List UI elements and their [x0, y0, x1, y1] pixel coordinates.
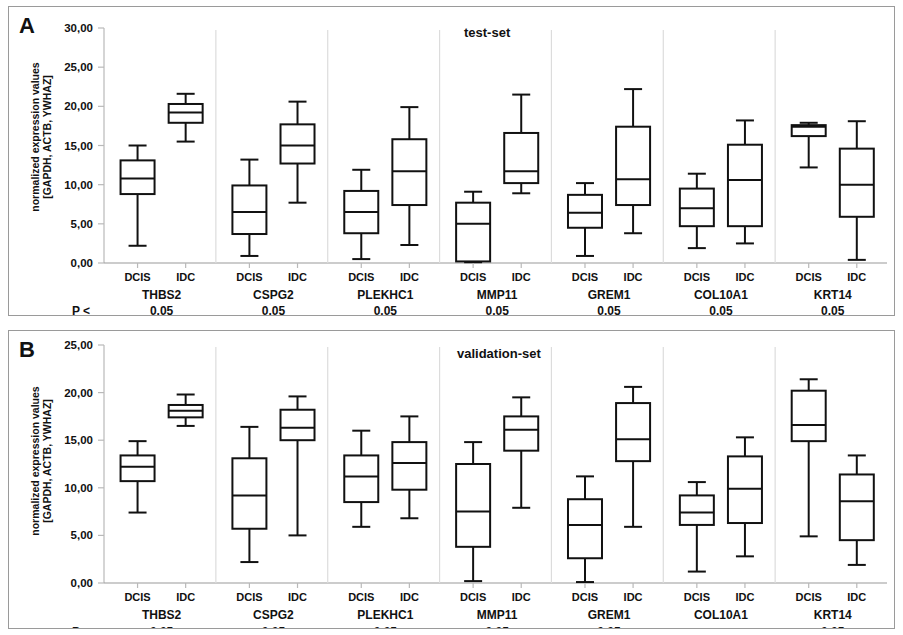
group-label-dcis: DCIS: [572, 591, 598, 603]
box-plot-box: [728, 145, 762, 226]
group-label-dcis: DCIS: [124, 271, 150, 283]
box-plot-box: [616, 403, 650, 461]
y-tick-label: 30,00: [64, 22, 93, 34]
group-label-dcis: DCIS: [684, 591, 710, 603]
group-label-idc: IDC: [176, 591, 195, 603]
y-tick-label: 10,00: [64, 179, 93, 191]
y-tick-label: 15,00: [64, 434, 93, 446]
box-plot-box: [121, 455, 155, 481]
box-plot-box: [504, 133, 538, 183]
group-label-dcis: DCIS: [348, 271, 374, 283]
gene-label: GREM1: [588, 608, 631, 622]
gene-label: GREM1: [588, 288, 631, 302]
group-label-dcis: DCIS: [348, 591, 374, 603]
p-value-label: 0.05: [150, 625, 174, 628]
p-prefix-label: P <: [72, 625, 90, 628]
p-value-label: 0.05: [821, 304, 845, 315]
box-plot-box: [344, 455, 378, 502]
box-plot-box: [232, 185, 266, 234]
y-tick-label: 25,00: [64, 339, 93, 351]
panel-b: B validation-set normalized expression v…: [8, 330, 895, 629]
y-tick-label: 20,00: [64, 387, 93, 399]
p-value-label: 0.05: [374, 304, 398, 315]
box-plot-box: [568, 195, 602, 228]
gene-label: CSPG2: [253, 288, 294, 302]
gene-label: MMP11: [477, 288, 518, 302]
group-label-idc: IDC: [400, 271, 419, 283]
box-plot-box: [840, 474, 874, 540]
gene-label: COL10A1: [694, 288, 748, 302]
p-value-label: 0.05: [150, 304, 174, 315]
box-plot-box: [616, 127, 650, 205]
box-plot-box: [281, 410, 315, 440]
p-prefix-label: P <: [72, 304, 90, 315]
group-label-dcis: DCIS: [236, 591, 262, 603]
gene-label: MMP11: [477, 608, 518, 622]
gene-label: CSPG2: [253, 608, 294, 622]
group-label-dcis: DCIS: [796, 271, 822, 283]
group-label-dcis: DCIS: [684, 271, 710, 283]
box-plot-box: [232, 458, 266, 528]
y-tick-label: 10,00: [64, 482, 93, 494]
p-value-label: 0.05: [485, 625, 509, 628]
group-label-idc: IDC: [624, 271, 643, 283]
y-tick-label: 5,00: [71, 218, 93, 230]
group-label-idc: IDC: [735, 271, 754, 283]
group-label-idc: IDC: [847, 271, 866, 283]
p-value-label: 0.05: [485, 304, 509, 315]
panel-a-plot: 0,005,0010,0015,0020,0025,0030,00DCISIDC…: [9, 7, 896, 315]
group-label-idc: IDC: [400, 591, 419, 603]
group-label-idc: IDC: [512, 271, 531, 283]
box-plot-box: [568, 499, 602, 558]
group-label-idc: IDC: [288, 271, 307, 283]
p-value-label: 0.05: [821, 625, 845, 628]
gene-label: PLEKHC1: [357, 608, 413, 622]
box-plot-box: [504, 416, 538, 450]
box-plot-box: [456, 464, 490, 547]
box-plot-box: [792, 391, 826, 441]
y-tick-label: 25,00: [64, 61, 93, 73]
gene-label: PLEKHC1: [357, 288, 413, 302]
gene-label: THBS2: [142, 288, 182, 302]
y-tick-label: 15,00: [64, 140, 93, 152]
group-label-dcis: DCIS: [572, 271, 598, 283]
gene-label: KRT14: [814, 608, 852, 622]
p-value-label: 0.05: [262, 304, 286, 315]
group-label-idc: IDC: [288, 591, 307, 603]
p-value-label: n.s.: [711, 625, 732, 628]
box-plot-box: [281, 124, 315, 163]
box-plot-box: [121, 160, 155, 194]
group-label-dcis: DCIS: [236, 271, 262, 283]
group-label-dcis: DCIS: [460, 271, 486, 283]
group-label-idc: IDC: [624, 591, 643, 603]
box-plot-box: [456, 203, 490, 262]
group-label-idc: IDC: [176, 271, 195, 283]
panel-b-plot: 0,005,0010,0015,0020,0025,00DCISIDCTHBS2…: [9, 331, 896, 628]
p-value-label: 0.05: [374, 625, 398, 628]
group-label-idc: IDC: [847, 591, 866, 603]
panel-a: A test-set normalized expression values …: [8, 6, 895, 316]
p-value-label: 0.05: [709, 304, 733, 315]
y-tick-label: 0,00: [71, 577, 93, 589]
gene-label: COL10A1: [694, 608, 748, 622]
box-plot-box: [840, 149, 874, 217]
gene-label: THBS2: [142, 608, 182, 622]
y-tick-label: 20,00: [64, 100, 93, 112]
y-tick-label: 0,00: [71, 257, 93, 269]
group-label-dcis: DCIS: [124, 591, 150, 603]
figure-root: A test-set normalized expression values …: [0, 0, 903, 635]
group-label-dcis: DCIS: [796, 591, 822, 603]
p-value-label: 0.05: [597, 625, 621, 628]
gene-label: KRT14: [814, 288, 852, 302]
box-plot-box: [392, 442, 426, 490]
group-label-idc: IDC: [735, 591, 754, 603]
box-plot-box: [680, 495, 714, 525]
group-label-idc: IDC: [512, 591, 531, 603]
group-label-dcis: DCIS: [460, 591, 486, 603]
y-tick-label: 5,00: [71, 529, 93, 541]
p-value-label: 0.05: [597, 304, 621, 315]
p-value-label: 0.05: [262, 625, 286, 628]
